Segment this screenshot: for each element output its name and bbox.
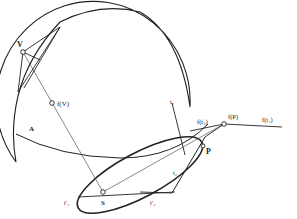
label-t2: t₂ [173,169,177,176]
label-t2-prime: t′₂ [150,199,156,206]
sphere-outline [0,1,190,162]
image-line-ft2 [224,124,282,127]
label-P: P [206,147,211,156]
tangent-t1-prime [78,192,175,197]
label-t1: t₁ [170,98,174,105]
tangent-line-v4 [24,27,60,88]
label-ft1: f(t₁) [197,118,208,126]
stereographic-diagram: V f(V) A S P t₁ t₂ t′₁ t′₂ f(t₁) f(P) f(… [0,0,297,219]
tangent-t2 [172,137,205,193]
equator-curve [16,124,208,158]
label-ft2: f(t₂) [262,116,273,124]
label-V: V [17,40,23,49]
point-V [21,50,26,55]
point-fP [222,122,227,127]
label-fP: f(P) [228,113,238,121]
tangent-line-v1 [23,27,60,52]
label-fV: f(V) [57,100,70,108]
label-t1-prime: t′₁ [64,199,70,206]
point-P [201,144,205,148]
point-fV [50,101,55,106]
point-S [101,190,106,195]
label-S: S [101,199,105,207]
label-A: A [29,125,34,133]
